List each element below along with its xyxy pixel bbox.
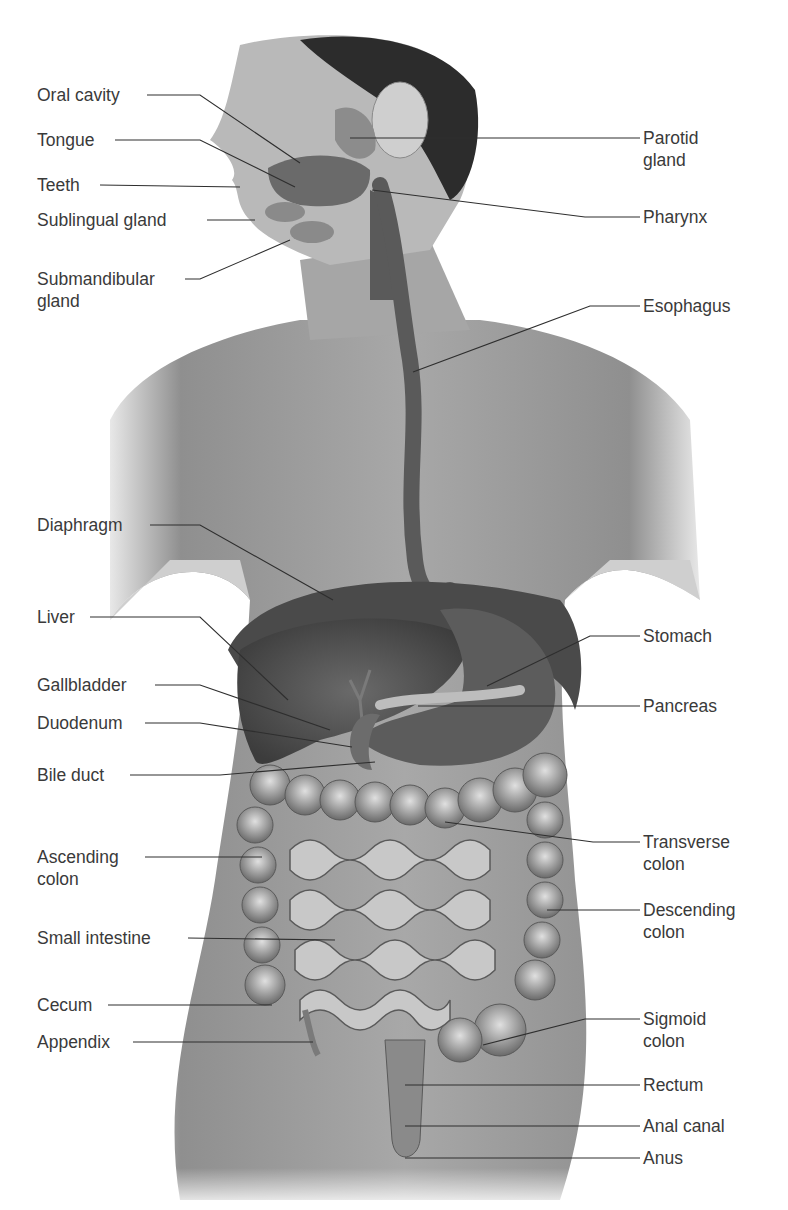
label-text: Small intestine — [37, 927, 151, 949]
label-text: Bile duct — [37, 764, 104, 786]
label-ascending-colon: Ascendingcolon — [37, 846, 119, 890]
label-parotid-gland: Parotidgland — [643, 127, 698, 171]
label-duodenum: Duodenum — [37, 712, 123, 734]
label-text: Teeth — [37, 174, 80, 196]
label-text-line2: gland — [643, 149, 698, 171]
leader-line-teeth — [100, 185, 240, 187]
label-text: Sublingual gland — [37, 209, 166, 231]
label-tongue: Tongue — [37, 129, 94, 151]
label-text: Stomach — [643, 625, 712, 647]
label-text-line2: gland — [37, 290, 155, 312]
label-text: Anal canal — [643, 1115, 725, 1137]
label-text: Diaphragm — [37, 514, 123, 536]
label-bile-duct: Bile duct — [37, 764, 104, 786]
label-esophagus: Esophagus — [643, 295, 731, 317]
label-oral-cavity: Oral cavity — [37, 84, 120, 106]
label-text: Esophagus — [643, 295, 731, 317]
label-pharynx: Pharynx — [643, 206, 707, 228]
label-gallbladder: Gallbladder — [37, 674, 127, 696]
label-sublingual-gland: Sublingual gland — [37, 209, 166, 231]
label-text-line2: colon — [643, 853, 730, 875]
label-small-intestine: Small intestine — [37, 927, 151, 949]
label-text: Anus — [643, 1147, 683, 1169]
label-text: Sigmoid — [643, 1008, 706, 1030]
label-appendix: Appendix — [37, 1031, 110, 1053]
label-sigmoid-colon: Sigmoidcolon — [643, 1008, 706, 1052]
label-text: Transverse — [643, 831, 730, 853]
label-text: Duodenum — [37, 712, 123, 734]
label-rectum: Rectum — [643, 1074, 703, 1096]
label-anus: Anus — [643, 1147, 683, 1169]
label-text: Tongue — [37, 129, 94, 151]
label-stomach: Stomach — [643, 625, 712, 647]
label-text: Oral cavity — [37, 84, 120, 106]
label-text: Submandibular — [37, 268, 155, 290]
label-cecum: Cecum — [37, 994, 92, 1016]
label-text: Liver — [37, 606, 75, 628]
label-text: Pharynx — [643, 206, 707, 228]
label-text-line2: colon — [643, 921, 735, 943]
submandibular-shape — [290, 221, 334, 243]
label-text: Gallbladder — [37, 674, 127, 696]
sublingual-shape — [265, 202, 305, 222]
label-text: Pancreas — [643, 695, 717, 717]
label-text: Ascending — [37, 846, 119, 868]
label-text: Parotid — [643, 127, 698, 149]
label-text: Rectum — [643, 1074, 703, 1096]
label-anal-canal: Anal canal — [643, 1115, 725, 1137]
label-text-line2: colon — [643, 1030, 706, 1052]
label-descending-colon: Descendingcolon — [643, 899, 735, 943]
label-text-line2: colon — [37, 868, 119, 890]
label-teeth: Teeth — [37, 174, 80, 196]
label-submandibular-gland: Submandibulargland — [37, 268, 155, 312]
digestive-system-diagram: Oral cavityTongueTeethSublingual glandSu… — [0, 0, 788, 1210]
ear — [372, 82, 428, 158]
label-text: Descending — [643, 899, 735, 921]
label-pancreas: Pancreas — [643, 695, 717, 717]
label-text: Cecum — [37, 994, 92, 1016]
label-diaphragm: Diaphragm — [37, 514, 123, 536]
label-text: Appendix — [37, 1031, 110, 1053]
leader-line-submandibular-gland — [185, 240, 290, 279]
label-liver: Liver — [37, 606, 75, 628]
label-transverse-colon: Transversecolon — [643, 831, 730, 875]
